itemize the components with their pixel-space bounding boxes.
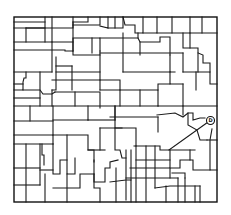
parcel-boundaries — [14, 17, 217, 202]
boundary-map: D — [0, 0, 231, 215]
location-marker[interactable]: D — [207, 117, 215, 125]
location-marker-label: D — [208, 117, 212, 123]
map-figure: D — [0, 0, 231, 215]
